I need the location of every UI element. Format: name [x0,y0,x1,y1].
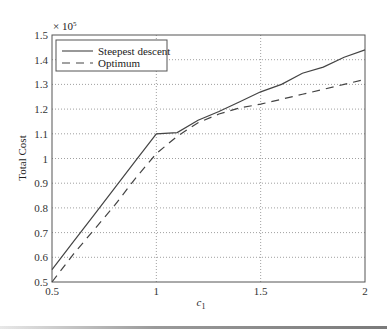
series-line-steepest-descent [52,50,365,270]
y-tick-label: 0.9 [34,177,48,189]
x-tick-label: 2 [362,285,368,297]
y-tick-label: 1.1 [34,128,48,140]
y-tick-label: 0.6 [34,251,48,263]
x-tick-label: 1 [154,285,160,297]
y-tick-label: 1.2 [34,103,48,115]
y-tick-label: 0.8 [34,202,48,214]
y-tick-label: 1.5 [34,29,48,41]
y-axis-label: Total Cost [16,135,28,180]
y-multiplier-label: × 105 [53,20,77,32]
x-tick-label: 1.5 [254,285,268,297]
series-line-optimum [52,79,365,282]
legend-label-optimum: Optimum [98,57,141,69]
x-axis-label: c1 [197,296,206,311]
line-chart: 0.511.52 0.50.60.70.80.911.11.21.31.41.5… [0,0,387,329]
y-tick-label: 0.7 [34,227,48,239]
y-tick-labels: 0.50.60.70.80.911.11.21.31.41.5 [34,29,48,288]
legend-label-steepest-descent: Steepest descent [98,45,170,57]
grid-lines [52,35,365,282]
y-tick-label: 1.3 [34,78,48,90]
y-tick-label: 1 [43,153,49,165]
y-tick-label: 1.4 [34,54,48,66]
x-tick-labels: 0.511.52 [45,285,368,297]
y-tick-label: 0.5 [34,276,48,288]
legend: Steepest descent Optimum [56,40,170,71]
